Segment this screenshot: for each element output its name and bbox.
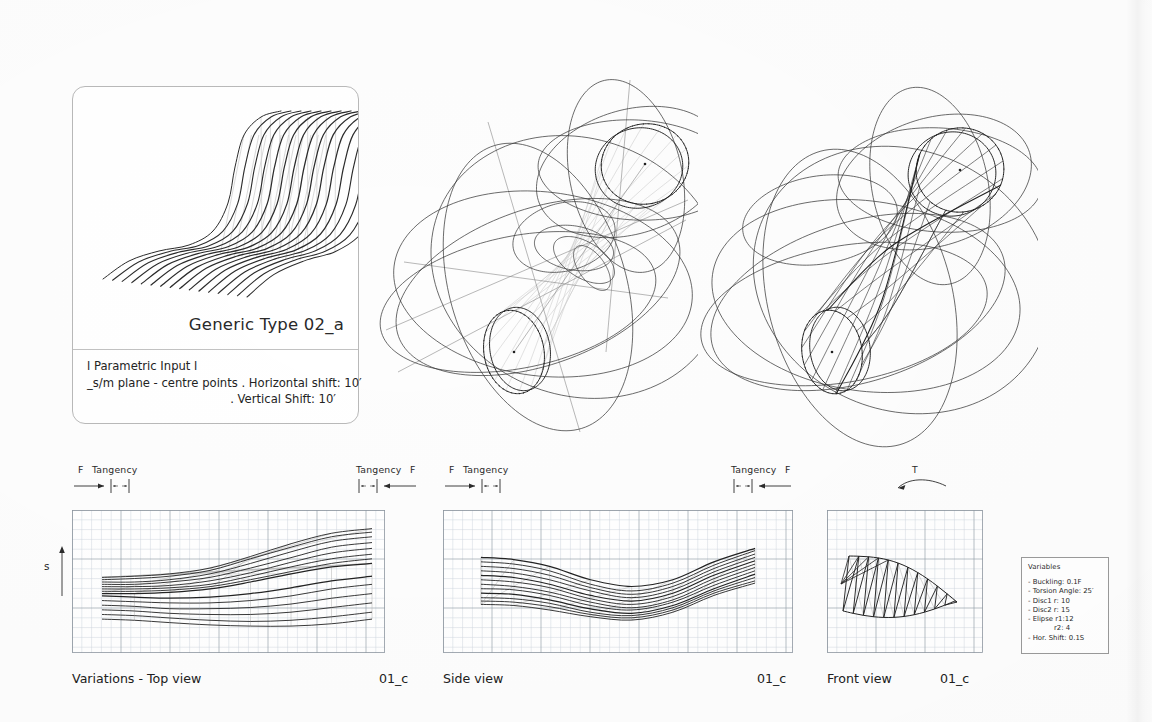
code-top-view: 01_c [379, 671, 408, 686]
force-arrow-right-icon [72, 464, 202, 498]
spec-card-body: l Parametric Input l _s/m plane - centre… [87, 358, 348, 408]
force-arrow-right-icon [443, 464, 573, 498]
axonometric-construction-figure [368, 52, 698, 452]
axo-left-svg [368, 52, 698, 452]
force-arrow-left-icon [705, 464, 835, 498]
annotation-top-right: Tangency F [300, 464, 430, 498]
variables-box: Variables - Buckling: 0.1F - Torsion Ang… [1021, 557, 1109, 654]
spec-card: Generic Type 02_a l Parametric Input l _… [72, 86, 359, 424]
variables-title: Variables [1028, 563, 1103, 571]
spec-card-figure [73, 87, 358, 345]
spec-line-3: . Vertical Shift: 10′ [87, 391, 348, 408]
caption-top-view: Variations - Top view [72, 671, 201, 686]
force-arrow-left-icon [300, 464, 430, 498]
drawing-sheet: Generic Type 02_a l Parametric Input l _… [0, 0, 1152, 722]
caption-side-view: Side view [443, 671, 503, 686]
scan-seam-artifact [1126, 0, 1152, 722]
variable-ellipse-r1: - Elipse r1:12 [1028, 615, 1103, 624]
panel-top-view [72, 510, 385, 653]
plot-front-view [827, 510, 983, 653]
s-axis-label: s [44, 560, 49, 572]
axonometric-surface-figure [688, 52, 1038, 452]
code-side-view: 01_c [757, 671, 786, 686]
variable-disc2-radius: - Disc2 r: 15 [1028, 606, 1103, 615]
variable-buckling: - Buckling: 0.1F [1028, 578, 1103, 587]
annotation-side-right: Tangency F [705, 464, 835, 498]
s-axis-indicator: s [44, 542, 74, 598]
s-curve-family-svg [73, 87, 358, 345]
caption-front-view: Front view [827, 671, 892, 686]
panel-side-view [443, 510, 793, 653]
plot-top-view [72, 510, 385, 653]
spec-line-2: _s/m plane - centre points . Horizontal … [87, 375, 348, 392]
annotation-front-torsion: T [890, 464, 980, 498]
code-front-view: 01_c [940, 671, 969, 686]
torsion-arrow-icon [890, 464, 980, 498]
plot-side-view [443, 510, 793, 653]
annotation-top-left: F Tangency [72, 464, 202, 498]
panel-front-view [827, 510, 983, 653]
variables-list: - Buckling: 0.1F - Torsion Angle: 25′ - … [1028, 578, 1103, 643]
axo-right-svg [688, 52, 1038, 452]
spec-line-1: l Parametric Input l [87, 358, 348, 375]
variable-disc1-radius: - Disc1 r: 10 [1028, 597, 1103, 606]
variable-hor-shift: - Hor. Shift: 0.1S [1028, 634, 1103, 643]
spec-card-divider [73, 349, 358, 350]
spec-card-title: Generic Type 02_a [189, 315, 344, 334]
variable-torsion-angle: - Torsion Angle: 25′ [1028, 587, 1103, 596]
variable-ellipse-r2: r2: 4 [1028, 624, 1103, 633]
annotation-side-left: F Tangency [443, 464, 573, 498]
